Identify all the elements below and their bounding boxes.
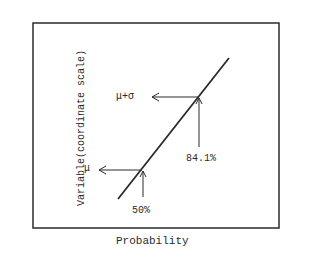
x-axis-label: Probability [116,235,189,247]
p50-label: 50% [132,205,150,216]
y-axis-label: Variable(coordinate scale) [76,50,87,206]
mu-label: μ [84,163,90,174]
p841-label: 84.1% [186,153,216,164]
plot-frame [33,23,279,228]
mu-sigma-label: μ+σ [116,91,134,102]
probability-line [118,58,229,199]
